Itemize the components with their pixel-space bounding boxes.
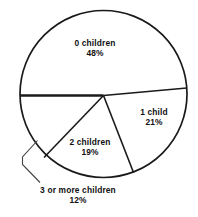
callout-leader-line-threeplus bbox=[23, 141, 41, 183]
pie-slice-label-3-or-more-children: 3 or more children 12% bbox=[2, 185, 154, 206]
pie-slice-label-0-children-value: 48% bbox=[46, 48, 144, 58]
pie-slice-label-3-or-more-children-value: 12% bbox=[2, 195, 154, 205]
pie-slice-label-0-children: 0 children 48% bbox=[46, 38, 144, 59]
pie-slice-label-1-child-value: 21% bbox=[118, 117, 190, 127]
pie-slice-label-2-children-value: 19% bbox=[47, 147, 133, 157]
pie-slice-label-0-children-name: 0 children bbox=[46, 38, 144, 48]
pie-slice-label-2-children-name: 2 children bbox=[47, 137, 133, 147]
pie-slice-label-1-child-name: 1 child bbox=[118, 107, 190, 117]
pie-slice-label-3-or-more-children-name: 3 or more children bbox=[2, 185, 154, 195]
pie-slice-label-2-children: 2 children 19% bbox=[47, 137, 133, 158]
pie-chart: 0 children 48% 1 child 21% 2 children 19… bbox=[0, 0, 198, 217]
pie-slice-label-1-child: 1 child 21% bbox=[118, 107, 190, 128]
